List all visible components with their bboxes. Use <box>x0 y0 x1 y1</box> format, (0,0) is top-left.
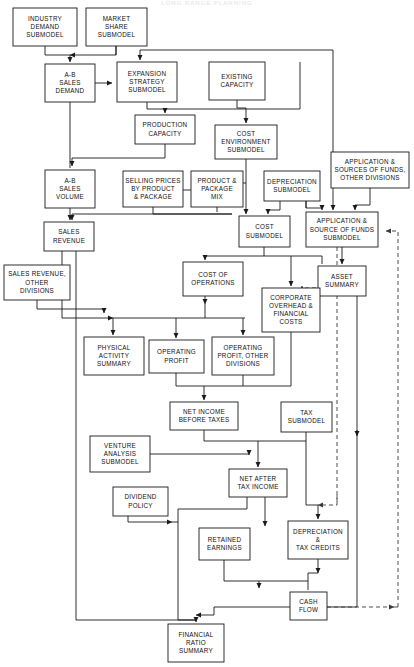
flowchart-node-asset_summary[interactable]: ASSETSUMMARY <box>318 266 366 296</box>
node-label: EXPANSIONSTRATEGYSUBMODEL <box>128 69 167 92</box>
flowchart-node-sales_revenue_od[interactable]: SALES REVENUE,OTHERDIVISIONS <box>4 265 70 300</box>
flowchart-node-dividend_policy[interactable]: DIVIDENDPOLICY <box>113 487 168 516</box>
flowchart-node-application_source_sub[interactable]: APPLICATION &SOURCE OF FUNDSSUBMODEL <box>306 212 378 247</box>
flowchart-node-depreciation_submodel[interactable]: DEPRECIATIONSUBMODEL <box>264 171 320 201</box>
flowchart-node-sales_revenue[interactable]: SALESREVENUE <box>44 222 94 251</box>
flowchart-node-ab_sales_demand[interactable]: A-BSALESDEMAND <box>45 64 95 102</box>
flowchart-node-net_after_tax_income[interactable]: NET AFTERTAX INCOME <box>229 469 287 497</box>
node-label: DIVIDENDPOLICY <box>124 493 156 508</box>
flowchart-node-product_package_mix[interactable]: PRODUCT &PACKAGEMIX <box>191 171 243 207</box>
node-label: NET AFTERTAX INCOME <box>237 475 278 490</box>
flowchart-node-existing_capacity[interactable]: EXISTINGCAPACITY <box>209 62 265 100</box>
flowchart-node-cost_environment[interactable]: COSTENVIRONMENTSUBMODEL <box>215 125 277 159</box>
node-label: APPLICATION &SOURCES OF FUNDS,OTHER DIVI… <box>334 157 405 180</box>
node-label: DEPRECIATIONSUBMODEL <box>267 178 317 193</box>
flowchart-node-expansion_strategy[interactable]: EXPANSIONSTRATEGYSUBMODEL <box>117 62 177 102</box>
flowchart-node-industry_demand[interactable]: INDUSTRYDEMANDSUBMODEL <box>13 8 77 46</box>
flowchart-node-depreciation_tax_credit[interactable]: DEPRECIATION&TAX CREDITS <box>288 521 348 559</box>
flowchart-node-operating_profit[interactable]: OPERATINGPROFIT <box>149 340 204 373</box>
node-label: INDUSTRYDEMANDSUBMODEL <box>26 14 64 37</box>
flowchart-node-production_capacity[interactable]: PRODUCTIONCAPACITY <box>135 115 195 144</box>
node-label: NET INCOMEBEFORE TAXES <box>179 408 230 423</box>
node-label: RETAINEDEARNINGS <box>207 536 242 551</box>
node-label: VENTUREANALYSISSUBMODEL <box>101 441 139 464</box>
flowchart-node-financial_ratio[interactable]: FINANCIALRATIOSUMMARY <box>168 624 224 662</box>
flowchart-node-cash_flow[interactable]: CASHFLOW <box>290 592 327 620</box>
flowchart-node-selling_prices[interactable]: SELLING PRICESBY PRODUCT& PACKAGE <box>123 171 183 207</box>
node-label: CASHFLOW <box>299 598 318 613</box>
node-label: PHYSICALACTIVITYSUMMARY <box>97 343 131 366</box>
flowchart-node-application_sources_od[interactable]: APPLICATION &SOURCES OF FUNDS,OTHER DIVI… <box>331 152 409 188</box>
flowchart-node-operating_profit_od[interactable]: OPERATINGPROFIT, OTHERDIVISIONS <box>212 337 274 375</box>
flowchart-node-cost_submodel[interactable]: COSTSUBMODEL <box>239 216 290 247</box>
node-label: EXISTINGCAPACITY <box>220 73 254 88</box>
flowchart-node-market_share[interactable]: MARKETSHARESUBMODEL <box>86 8 147 46</box>
flowchart-node-cost_of_operations[interactable]: COST OFOPERATIONS <box>183 262 243 296</box>
flowchart-node-physical_activity[interactable]: PHYSICALACTIVITYSUMMARY <box>84 337 144 375</box>
flowchart-node-net_income_before_tax[interactable]: NET INCOMEBEFORE TAXES <box>170 402 238 430</box>
flowchart-node-ab_sales_volume[interactable]: A-BSALESVOLUME <box>45 170 95 208</box>
flowchart-diagram: INDUSTRYDEMANDSUBMODELMARKETSHARESUBMODE… <box>0 0 414 667</box>
diagram-canvas: LONG RANGE PLANNING <box>0 0 414 667</box>
flowchart-node-corporate_overhead[interactable]: CORPORATEOVERHEAD &FINANCIALCOSTS <box>262 288 320 332</box>
node-layer: INDUSTRYDEMANDSUBMODELMARKETSHARESUBMODE… <box>4 8 409 662</box>
node-label: PRODUCTIONCAPACITY <box>143 121 188 136</box>
flowchart-node-venture_analysis[interactable]: VENTUREANALYSISSUBMODEL <box>90 436 150 472</box>
flowchart-node-retained_earnings[interactable]: RETAINEDEARNINGS <box>199 528 250 560</box>
flowchart-node-tax_submodel[interactable]: TAXSUBMODEL <box>281 402 332 432</box>
